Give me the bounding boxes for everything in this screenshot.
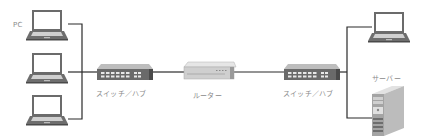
label-switch-left: スイッチ／ハブ [96, 88, 146, 98]
label-server: サーバー [372, 73, 401, 83]
laptop-icon-pc3 [26, 95, 68, 126]
label-pc: PC [13, 21, 23, 29]
router-icon [184, 62, 236, 79]
switch-icon-right [284, 64, 340, 80]
label-switch-right: スイッチ／ハブ [283, 88, 333, 98]
server-icon [372, 86, 404, 136]
label-router: ルーター [193, 90, 222, 100]
laptop-icon-pc2 [26, 53, 68, 84]
switch-icon-left [97, 64, 153, 80]
laptop-icon-pc1 [26, 10, 68, 41]
network-diagram [0, 0, 421, 139]
laptop-icon-pc4 [368, 12, 410, 43]
